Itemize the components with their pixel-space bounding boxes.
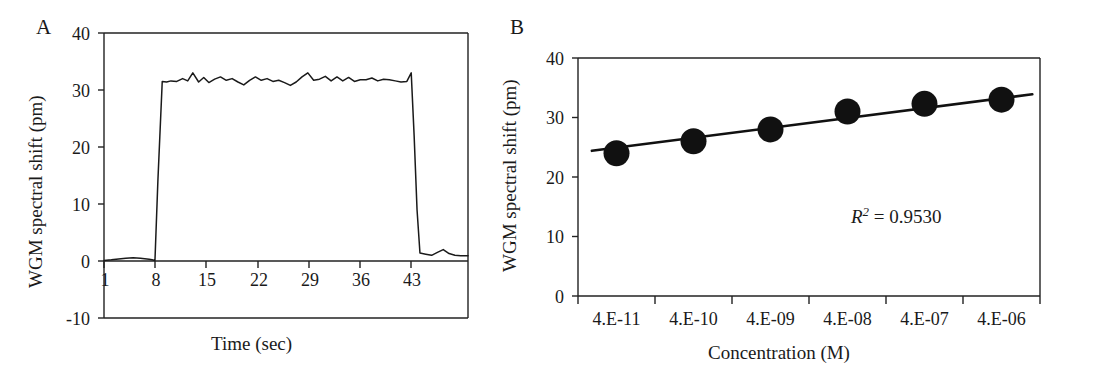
y-tick-label-a-10: 10: [44, 196, 90, 214]
x-tick-label-b-3: 4.E-09: [732, 310, 809, 328]
x-tick-label-a-1: 1: [94, 271, 116, 289]
x-tick-label-a-36: 36: [347, 271, 375, 289]
y-tick-label-b-10: 10: [518, 228, 564, 246]
r-squared-value: = 0.9530: [869, 206, 941, 227]
x-tick-label-b-2: 4.E-10: [655, 310, 732, 328]
y-tick-label-a-20: 20: [44, 139, 90, 157]
y-ticks-b: [572, 58, 578, 296]
x-tick-label-a-43: 43: [398, 271, 426, 289]
x-tick-label-b-6: 4.E-06: [963, 310, 1040, 328]
y-tick-label-a-0: 0: [44, 253, 90, 271]
data-markers: [604, 87, 1015, 167]
x-ticks-b: [578, 296, 1040, 304]
y-axis-title-a: WGM spectral shift (pm): [26, 95, 45, 288]
x-tick-label-b-5: 4.E-07: [886, 310, 963, 328]
y-axis-title-b: WGM spectral shift (pm): [500, 79, 519, 272]
x-axis-title-a: Time (sec): [211, 334, 292, 353]
r-squared-symbol: R: [851, 206, 863, 227]
panel-b: B: [480, 0, 1097, 383]
y-tick-label-a-30: 30: [44, 82, 90, 100]
r-squared-annotation: R2 = 0.9530: [851, 207, 942, 226]
data-point: [758, 116, 784, 142]
x-tick-label-a-22: 22: [245, 271, 273, 289]
y-tick-label-a-minus10: -10: [36, 310, 90, 328]
figure-container: A: [0, 0, 1097, 383]
data-point: [681, 128, 707, 154]
x-tick-label-a-29: 29: [296, 271, 324, 289]
y-tick-label-b-40: 40: [518, 50, 564, 68]
x-axis-title-b: Concentration (M): [708, 343, 850, 362]
data-point: [604, 140, 630, 166]
signal-trace: [104, 73, 468, 261]
y-tick-label-b-0: 0: [518, 288, 564, 306]
y-tick-label-a-40: 40: [44, 25, 90, 43]
x-ticks-a: [104, 261, 411, 268]
x-tick-label-a-15: 15: [193, 271, 221, 289]
x-tick-label-a-8: 8: [145, 271, 167, 289]
x-tick-label-b-4: 4.E-08: [809, 310, 886, 328]
data-point: [989, 87, 1015, 113]
x-tick-label-b-1: 4.E-11: [578, 310, 655, 328]
y-tick-label-b-30: 30: [518, 109, 564, 127]
y-tick-label-b-20: 20: [518, 169, 564, 187]
data-point: [835, 99, 861, 125]
panel-a: A: [0, 0, 480, 383]
data-point: [912, 91, 938, 117]
trend-line: [592, 94, 1032, 151]
